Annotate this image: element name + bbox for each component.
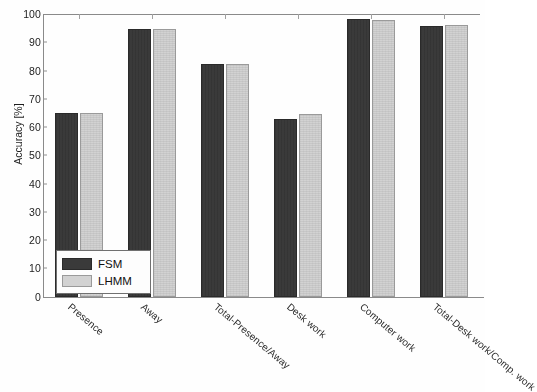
legend-item-lhmm: LHMM [62,273,145,288]
x-tick-label: Away [139,301,165,325]
bar-texture [154,30,175,296]
bar-fsm-3 [274,119,297,296]
bar-fsm-5 [420,26,443,296]
x-tick-mark [444,14,445,19]
legend-label-fsm: FSM [98,258,122,270]
y-tick-mark [43,70,47,71]
y-tick-mark [43,127,47,128]
y-tick-mark [43,42,47,43]
y-tick-label: 10 [0,262,41,274]
legend-swatch-fsm [62,258,92,270]
bar-lhmm-1 [153,29,176,297]
bar-texture [446,26,467,295]
x-tick-mark [225,14,226,19]
legend-item-fsm: FSM [62,256,145,271]
legend-swatch-lhmm [62,275,92,287]
x-tick-label: Total-Presence/Away [212,301,292,371]
bar-texture [348,20,369,296]
legend: FSM LHMM [56,250,151,294]
x-tick-label: Desk work [285,301,329,340]
y-tick-mark [43,240,47,241]
x-tick-mark [298,14,299,19]
bar-texture [275,120,296,295]
bar-texture [373,21,394,295]
bar-fsm-4 [347,19,370,297]
bar-lhmm-3 [299,114,322,297]
bar-lhmm-2 [226,64,249,297]
bar-lhmm-5 [445,25,468,296]
y-tick-mark [43,211,47,212]
x-axis-line [43,297,484,298]
y-tick-label: 30 [0,206,41,218]
y-tick-label: 100 [0,8,41,20]
bar-lhmm-4 [372,20,395,296]
x-tick-mark [152,14,153,19]
bar-texture [227,65,248,296]
y-tick-mark [43,98,47,99]
bar-texture [421,27,442,295]
y-tick-mark [43,268,47,269]
y-tick-mark [43,155,47,156]
x-tick-label: Total-Desk work/Comp. work [431,301,537,392]
legend-label-lhmm: LHMM [98,275,132,287]
y-tick-mark [43,183,47,184]
bar-texture [300,115,321,296]
x-tick-mark [371,14,372,19]
y-tick-label: 80 [0,65,41,77]
x-tick-label: Presence [66,301,106,337]
x-tick-label: Computer work [358,301,418,354]
x-tick-mark [79,14,80,19]
bar-texture [202,65,223,296]
bar-fsm-2 [201,64,224,297]
y-tick-label: 20 [0,234,41,246]
y-tick-label: 90 [0,36,41,48]
y-tick-label: 0 [0,291,41,303]
y-axis-title: Accuracy [%] [12,79,24,189]
